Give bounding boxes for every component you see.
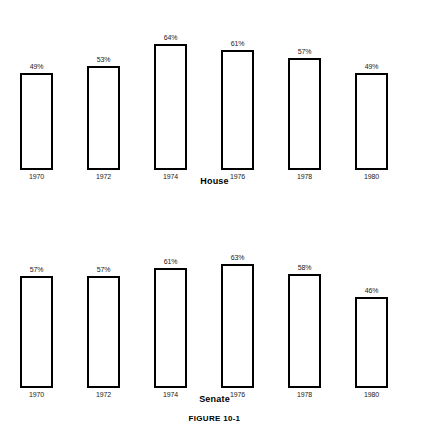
bar-value-label: 61% [164, 257, 178, 266]
plot-area-senate: 57%197057%197261%197463%197658%197846%19… [0, 208, 429, 388]
bar-house-1972 [87, 66, 120, 170]
bar-group: 58%1978 [288, 224, 321, 388]
bar-value-label: 61% [231, 39, 245, 48]
bar-group: 57%1970 [20, 224, 53, 388]
bar-house-1976 [221, 50, 254, 170]
bar-house-1980 [355, 73, 388, 170]
bar-group: 57%1978 [288, 7, 321, 170]
bar-value-label: 64% [164, 33, 178, 42]
bar-house-1978 [288, 58, 321, 170]
bar-house-1970 [20, 73, 53, 170]
bar-group: 64%1974 [154, 7, 187, 170]
bar-value-label: 49% [30, 62, 44, 71]
bar-senate-1978 [288, 274, 321, 388]
figure: 49%197053%197264%197461%197657%197849%19… [0, 0, 429, 422]
bar-group: 61%1976 [221, 7, 254, 170]
figure-caption: FIGURE 10-1 [0, 414, 429, 422]
bar-group: 63%1976 [221, 224, 254, 388]
bar-senate-1970 [20, 276, 53, 388]
bar-group: 46%1980 [355, 224, 388, 388]
bar-group: 53%1972 [87, 7, 120, 170]
bar-value-label: 58% [298, 263, 312, 272]
bar-senate-1972 [87, 276, 120, 388]
bar-value-label: 49% [365, 62, 379, 71]
bar-group: 61%1974 [154, 224, 187, 388]
bar-value-label: 53% [97, 55, 111, 64]
bar-value-label: 57% [298, 47, 312, 56]
chart-title-house: House [0, 176, 429, 186]
bar-value-label: 57% [30, 265, 44, 274]
bar-house-1974 [154, 44, 187, 170]
bar-value-label: 46% [365, 286, 379, 295]
bar-senate-1980 [355, 297, 388, 388]
bar-group: 49%1980 [355, 7, 388, 170]
bar-group: 57%1972 [87, 224, 120, 388]
bar-senate-1976 [221, 264, 254, 388]
bar-value-label: 57% [97, 265, 111, 274]
chart-panel-senate: 57%197057%197261%197463%197658%197846%19… [0, 208, 429, 422]
bar-group: 49%1970 [20, 7, 53, 170]
bar-value-label: 63% [231, 253, 245, 262]
bar-senate-1974 [154, 268, 187, 388]
chart-panel-house: 49%197053%197264%197461%197657%197849%19… [0, 0, 429, 200]
chart-title-senate: Senate [0, 394, 429, 404]
plot-area-house: 49%197053%197264%197461%197657%197849%19… [0, 0, 429, 170]
